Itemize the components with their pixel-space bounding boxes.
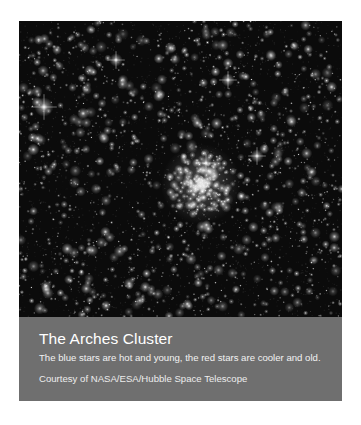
starfield-photo <box>19 21 342 317</box>
image-figure: The Arches Cluster The blue stars are ho… <box>19 21 342 401</box>
caption-title: The Arches Cluster <box>39 330 342 348</box>
caption-credit: Courtesy of NASA/ESA/Hubble Space Telesc… <box>39 372 342 385</box>
caption-description: The blue stars are hot and young, the re… <box>39 351 342 364</box>
starfield-canvas <box>19 21 342 317</box>
caption-band: The Arches Cluster The blue stars are ho… <box>19 317 342 401</box>
